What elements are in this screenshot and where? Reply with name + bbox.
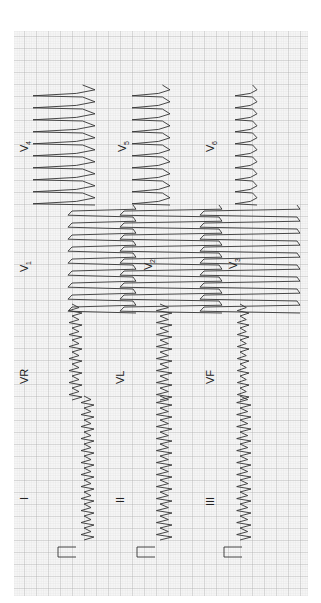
label-lead-VF: VF [204, 370, 216, 384]
label-lead-II: II [114, 497, 126, 503]
label-lead-III: III [204, 497, 216, 506]
svg-text:2: 2 [149, 259, 156, 263]
label-lead-VL: VL [114, 371, 126, 384]
svg-text:5: 5 [123, 141, 130, 145]
label-lead-I: I [18, 497, 30, 500]
svg-text:4: 4 [25, 141, 32, 145]
svg-text:6: 6 [211, 141, 218, 145]
ecg-figure: I II III VR VL VF V 1 V 2 V 3 V 4 V 5 V … [0, 0, 321, 603]
svg-text:1: 1 [25, 261, 32, 265]
label-lead-VR: VR [18, 369, 30, 384]
